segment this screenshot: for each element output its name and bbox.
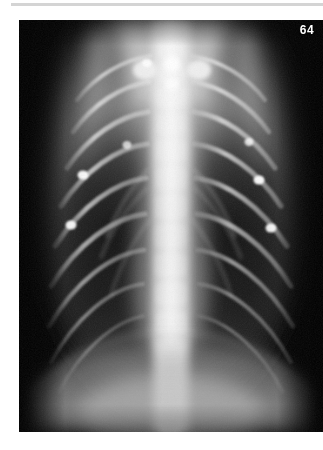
radiograph-canvas xyxy=(19,20,323,432)
figure-number-label: 64 xyxy=(300,24,314,36)
radiograph-image: 64 xyxy=(19,20,323,432)
scanline-texture xyxy=(19,20,323,432)
top-divider-rule xyxy=(11,3,323,6)
